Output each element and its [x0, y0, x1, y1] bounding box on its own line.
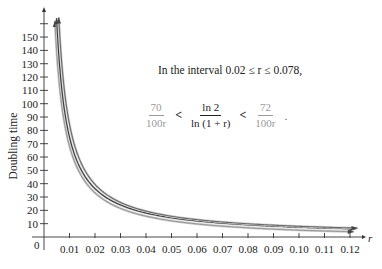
- fraction-numerator: 72: [258, 101, 273, 116]
- period: .: [285, 110, 288, 122]
- fraction-numerator: ln 2: [200, 101, 221, 116]
- less-than-sign: <: [240, 108, 247, 123]
- x-tick-label: 0.09: [264, 243, 284, 255]
- less-than-sign: <: [175, 108, 182, 123]
- x-tick-label: 0.08: [238, 243, 258, 255]
- doubling-time-chart: 0.010.020.030.040.050.060.070.080.090.10…: [0, 0, 382, 269]
- fraction-denominator: 100r: [253, 116, 277, 130]
- y-axis-arrow-icon: [42, 7, 46, 12]
- y-axis-label: Doubling time: [7, 113, 20, 180]
- x-axis-arrow-icon: [362, 235, 366, 239]
- axes: 0.010.020.030.040.050.060.070.080.090.10…: [22, 7, 367, 255]
- y-tick-label: 50: [27, 164, 39, 176]
- y-tick-label: 70: [27, 138, 39, 150]
- fraction-70-over-100r: 70 100r: [144, 101, 168, 130]
- fraction-72-over-100r: 72 100r: [253, 101, 277, 130]
- y-tick-label: 40: [27, 178, 39, 190]
- y-tick-label: 130: [22, 58, 39, 70]
- y-tick-label: 80: [27, 124, 39, 136]
- x-tick-label: 0.03: [111, 243, 131, 255]
- fraction-numerator: 70: [149, 101, 164, 116]
- origin-label: 0: [34, 239, 40, 251]
- x-tick-label: 0.12: [340, 243, 359, 255]
- x-tick-label: 0.11: [315, 243, 334, 255]
- x-tick-label: 0.06: [187, 243, 207, 255]
- x-axis-label: r: [368, 232, 373, 244]
- fraction-ln2-over-ln1r: ln 2 ln (1 + r): [189, 101, 233, 130]
- x-tick-label: 0.05: [162, 243, 182, 255]
- y-tick-label: 60: [27, 151, 39, 163]
- y-tick-label: 20: [27, 204, 39, 216]
- y-tick-label: 110: [22, 84, 39, 96]
- x-tick-label: 0.10: [289, 243, 309, 255]
- x-tick-label: 0.04: [136, 243, 156, 255]
- y-tick-label: 90: [27, 111, 39, 123]
- x-tick-label: 0.01: [60, 243, 79, 255]
- y-tick-label: 150: [22, 31, 39, 43]
- inequality-formula: 70 100r < ln 2 ln (1 + r) < 72 100r .: [142, 101, 287, 130]
- y-tick-label: 140: [22, 44, 39, 56]
- x-tick-label: 0.02: [85, 243, 104, 255]
- x-tick-label: 0.07: [213, 243, 233, 255]
- interval-annotation: In the interval 0.02 ≤ r ≤ 0.078,: [158, 64, 302, 76]
- y-tick-label: 100: [22, 98, 39, 110]
- fraction-denominator: 100r: [144, 116, 168, 130]
- y-tick-label: 120: [22, 71, 39, 83]
- y-tick-label: 30: [27, 191, 39, 203]
- y-tick-label: 10: [27, 218, 39, 230]
- fraction-denominator: ln (1 + r): [189, 116, 233, 130]
